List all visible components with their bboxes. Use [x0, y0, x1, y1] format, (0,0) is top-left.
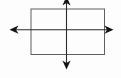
- diagram-canvas: [0, 0, 121, 78]
- rectangle-shape: [31, 9, 105, 55]
- rectangle-axes-diagram: [0, 0, 121, 78]
